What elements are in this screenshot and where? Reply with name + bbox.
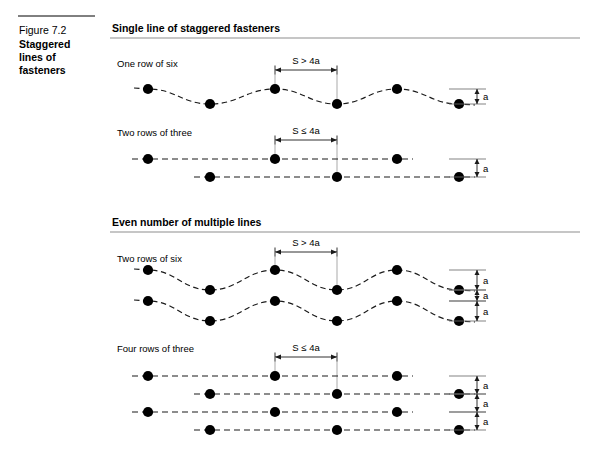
dimension-label-two-rows-of-six: S > 4a <box>292 237 320 248</box>
dimension-arrowhead <box>275 137 281 142</box>
a-arrowhead <box>475 425 480 430</box>
fastener-dot <box>392 371 402 381</box>
figure-title-line: fasteners <box>19 64 66 76</box>
a-arrowhead <box>475 89 480 94</box>
fastener-dot <box>332 172 342 182</box>
fastener-dot <box>205 99 215 109</box>
figure-title-line: Staggered <box>19 38 70 50</box>
a-arrowhead <box>475 290 480 295</box>
a-arrowhead <box>475 172 480 177</box>
fastener-wave-line-two-rows-of-six-b <box>134 300 475 322</box>
dimension-arrowhead <box>275 67 281 72</box>
fastener-dot <box>392 407 402 417</box>
fastener-dot <box>332 316 342 326</box>
fastener-dot <box>270 265 280 275</box>
dimension-arrowhead <box>275 249 281 254</box>
fastener-dot <box>205 389 215 399</box>
dimension-arrowhead <box>331 137 337 142</box>
fastener-dot <box>270 154 280 164</box>
dimension-arrowhead <box>331 354 337 359</box>
subdiagram-label-one-row-of-six: One row of six <box>117 58 178 69</box>
fastener-dot <box>332 99 342 109</box>
a-label-trs-3: a <box>483 306 489 317</box>
a-label-two-rows-of-three: a <box>483 163 489 174</box>
fastener-dot <box>205 316 215 326</box>
subdiagram-label-two-rows-of-three: Two rows of three <box>117 127 192 138</box>
fastener-dot <box>205 285 215 295</box>
a-label-frt-1: a <box>483 380 489 391</box>
fastener-dot <box>143 84 153 94</box>
section-heading-even-number: Even number of multiple lines <box>112 216 262 228</box>
a-arrowhead <box>475 389 480 394</box>
dimension-arrowhead <box>331 249 337 254</box>
dimension-arrowhead <box>331 67 337 72</box>
fastener-dot <box>205 425 215 435</box>
dimension-label-one-row-of-six: S > 4a <box>292 55 320 66</box>
a-arrowhead <box>475 316 480 321</box>
subdiagram-label-four-rows-of-three: Four rows of three <box>117 343 194 354</box>
figure-title-line: lines of <box>19 51 56 63</box>
dimension-label-two-rows-of-three: S ≤ 4a <box>292 125 320 136</box>
a-arrowhead <box>475 270 480 275</box>
fastener-dot <box>143 407 153 417</box>
fastener-dot <box>270 296 280 306</box>
fastener-dot <box>143 371 153 381</box>
a-arrowhead <box>475 301 480 306</box>
subdiagram-label-two-rows-of-six: Two rows of six <box>117 253 182 264</box>
dimension-label-four-rows-of-three: S ≤ 4a <box>292 342 320 353</box>
dimension-arrowhead <box>275 354 281 359</box>
fastener-dot <box>332 389 342 399</box>
fastener-dot <box>392 265 402 275</box>
a-arrowhead <box>475 99 480 104</box>
fastener-dot <box>332 425 342 435</box>
a-arrowhead <box>475 296 480 301</box>
a-arrowhead <box>475 159 480 164</box>
fastener-dot <box>392 296 402 306</box>
a-arrowhead <box>475 376 480 381</box>
a-label-trs-1: a <box>483 275 489 286</box>
a-arrowhead <box>475 394 480 399</box>
a-arrowhead <box>475 412 480 417</box>
fastener-dot <box>392 84 402 94</box>
fastener-dot <box>143 154 153 164</box>
a-label-trs-2: a <box>483 290 489 301</box>
fastener-dot <box>270 407 280 417</box>
fastener-dot <box>270 371 280 381</box>
figure-root: Figure 7.2Staggeredlines offastenersSing… <box>0 0 602 468</box>
fastener-dot <box>392 154 402 164</box>
a-label-frt-2: a <box>483 398 489 409</box>
fastener-dot <box>143 296 153 306</box>
figure-number: Figure 7.2 <box>19 24 66 36</box>
fastener-wave-line-one-row-of-six <box>134 88 475 105</box>
fastener-dot <box>205 172 215 182</box>
fastener-dot <box>332 285 342 295</box>
a-arrowhead <box>475 285 480 290</box>
staggered-fasteners-diagram: Figure 7.2Staggeredlines offastenersSing… <box>0 0 602 468</box>
fastener-dot <box>143 265 153 275</box>
a-label-one-row-of-six: a <box>483 91 489 102</box>
a-arrowhead <box>475 407 480 412</box>
fastener-wave-line-two-rows-of-six-a <box>134 269 475 291</box>
section-heading-single-line: Single line of staggered fasteners <box>112 22 280 34</box>
a-label-frt-3: a <box>483 416 489 427</box>
fastener-dot <box>270 84 280 94</box>
